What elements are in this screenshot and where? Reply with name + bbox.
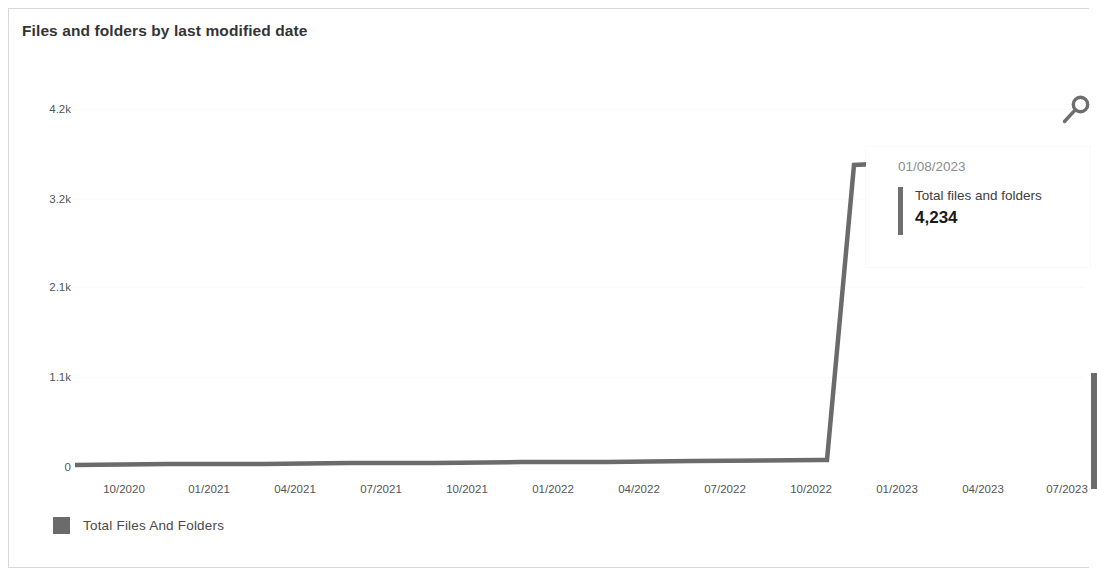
x-tick-label: 01/2023 bbox=[876, 483, 918, 495]
legend-item-label: Total Files And Folders bbox=[83, 518, 224, 533]
chart-tooltip: 01/08/2023 Total files and folders 4,234 bbox=[866, 147, 1090, 267]
tooltip-series-label: Total files and folders bbox=[915, 187, 1042, 205]
x-tick-label: 04/2022 bbox=[618, 483, 660, 495]
x-tick-label: 10/2020 bbox=[103, 483, 145, 495]
x-tick-label: 01/2022 bbox=[532, 483, 574, 495]
series-line-total-files-and-folders bbox=[9, 9, 1090, 552]
right-edge-bar bbox=[1091, 373, 1097, 489]
x-tick-label: 07/2023 bbox=[1046, 483, 1088, 495]
tooltip-text-group: Total files and folders 4,234 bbox=[915, 187, 1042, 229]
legend-swatch bbox=[53, 517, 70, 534]
tooltip-series-row: Total files and folders 4,234 bbox=[898, 187, 1076, 235]
chart-plot-area: 4.2k 3.2k 2.1k 1.1k 0 10/2020 01/2021 04… bbox=[9, 9, 1090, 552]
chart-legend[interactable]: Total Files And Folders bbox=[53, 517, 224, 534]
x-tick-label: 10/2021 bbox=[446, 483, 488, 495]
x-tick-label: 04/2021 bbox=[274, 483, 316, 495]
x-tick-label: 04/2023 bbox=[962, 483, 1004, 495]
chart-card: Files and folders by last modified date … bbox=[8, 8, 1089, 568]
magnifier-icon[interactable] bbox=[1059, 93, 1093, 127]
tooltip-series-color-marker bbox=[898, 187, 903, 235]
x-tick-label: 01/2021 bbox=[188, 483, 230, 495]
x-tick-label: 07/2021 bbox=[360, 483, 402, 495]
x-tick-label: 10/2022 bbox=[790, 483, 832, 495]
x-axis: 10/2020 01/2021 04/2021 07/2021 10/2021 … bbox=[9, 483, 1090, 503]
x-tick-label: 07/2022 bbox=[704, 483, 746, 495]
tooltip-date: 01/08/2023 bbox=[898, 159, 1076, 174]
tooltip-series-value: 4,234 bbox=[915, 207, 1042, 229]
